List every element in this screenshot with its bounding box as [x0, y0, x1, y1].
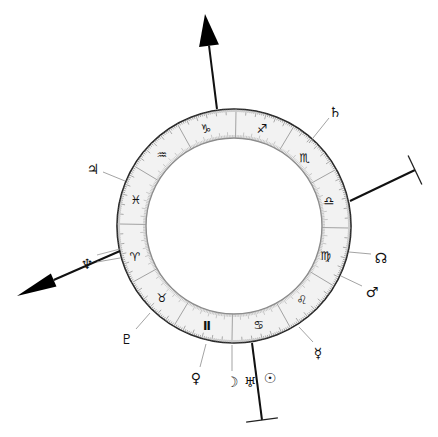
sign-divider: [117, 224, 146, 225]
sign-divider: [322, 228, 351, 229]
pisces-sign-icon: ♓: [131, 194, 142, 206]
cancer-sign-icon: ♋: [254, 319, 265, 331]
taurus-sign-icon: ♉: [157, 292, 168, 304]
leader-line-north-node: [349, 252, 371, 254]
leader-line-jupiter: [103, 172, 125, 181]
axis-line: [350, 170, 415, 201]
arrowhead-icon: [199, 14, 219, 47]
uranus-icon: ♅: [244, 375, 257, 389]
pluto-icon: ♇: [121, 332, 134, 346]
saturn-icon: ♄: [329, 105, 342, 119]
inner-circle: [146, 138, 322, 314]
axis-dsc: [350, 156, 422, 201]
mercury-icon: ☿: [314, 346, 323, 360]
jupiter-icon: ♃: [87, 162, 100, 176]
leader-line-mercury: [299, 327, 313, 342]
north-node-icon: ☊: [375, 251, 387, 265]
arrowhead-icon: [17, 274, 56, 296]
axis-asc: [17, 251, 120, 296]
aries-sign-icon: ♈: [130, 251, 141, 263]
moon-icon: ☽: [226, 375, 239, 389]
sun-icon: ☉: [264, 371, 277, 385]
axis-mc: [199, 14, 219, 109]
axis-line: [209, 46, 217, 109]
sign-divider: [236, 109, 237, 138]
capricorn-sign-icon: ♑: [201, 123, 212, 135]
mars-icon: ♂: [366, 285, 379, 299]
leader-line-mars: [341, 276, 362, 286]
axis-endbar: [408, 156, 422, 185]
zodiac-ring: [117, 109, 351, 343]
venus-icon: ♀: [191, 371, 201, 385]
aquarius-sign-icon: ♒: [157, 149, 168, 161]
leo-sign-icon: ♌: [297, 294, 308, 306]
leader-line-saturn: [309, 118, 329, 143]
virgo-sign-icon: ♍: [321, 250, 332, 262]
chart-wheel: [0, 0, 438, 437]
scorpio-sign-icon: ♏: [300, 152, 311, 164]
libra-sign-icon: ♎: [324, 195, 335, 207]
leader-line-venus: [200, 344, 206, 367]
leader-line-pluto: [136, 313, 150, 329]
gemini-sign-icon: Ⅱ: [203, 320, 211, 332]
sign-divider: [232, 314, 233, 343]
sagittarius-sign-icon: ♐: [257, 123, 268, 135]
neptune-icon: ♆: [81, 257, 94, 271]
